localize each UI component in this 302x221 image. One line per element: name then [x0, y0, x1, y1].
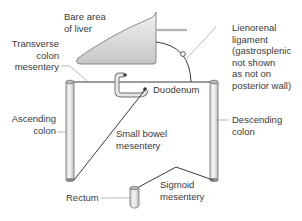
label-sigmoid-mesentery: Sigmoid mesentery [160, 179, 204, 202]
label-rectum: Rectum [66, 192, 99, 204]
label-lienorenal-ligament: Lienorenal ligament (gastrosplenic not s… [232, 22, 291, 91]
ascending-colon [57, 80, 74, 181]
transverse-colon-mesentery [61, 66, 216, 82]
rectum [101, 186, 139, 208]
label-small-bowel-mesentery: Small bowel mesentery [116, 128, 167, 151]
descending-colon [210, 80, 229, 181]
duodenum [117, 73, 147, 95]
label-bare-area-liver: Bare area of liver [64, 11, 106, 34]
label-duodenum: Duodenum [153, 84, 199, 96]
peritoneal-diagram: Bare area of liver Transverse colon mese… [0, 0, 302, 221]
label-transverse-colon-mesentery: Transverse colon mesentery [10, 38, 59, 73]
label-descending-colon: Descending colon [232, 114, 282, 137]
lienorenal-ligament [156, 27, 216, 82]
label-ascending-colon: Ascending colon [4, 113, 56, 136]
